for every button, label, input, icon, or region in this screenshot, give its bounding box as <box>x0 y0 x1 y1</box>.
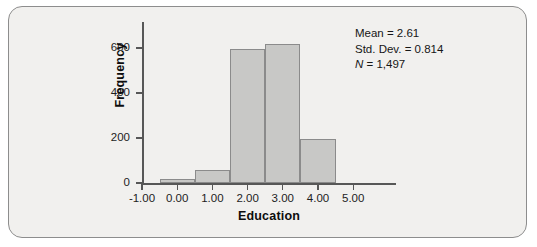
x-axis-title: Education <box>142 209 396 223</box>
x-axis-tick <box>282 184 283 190</box>
histogram-bar <box>265 44 300 183</box>
x-axis-tick <box>141 184 142 190</box>
x-axis-tick <box>177 184 178 190</box>
histogram-bar <box>160 179 195 184</box>
histogram-plot-area: 0 200 400 600 -1.00 0.00 1.00 2.00 3.00 … <box>0 0 537 247</box>
x-axis-tick-label: 5.00 <box>331 192 375 204</box>
x-axis-tick <box>353 184 354 190</box>
y-axis-tick-label: 0 <box>96 176 130 188</box>
histogram-bar <box>300 139 335 183</box>
y-axis-tick <box>136 92 142 93</box>
y-axis-title: Frequency <box>113 35 127 115</box>
y-axis-tick <box>136 137 142 138</box>
x-axis-line <box>142 183 396 185</box>
x-axis-tick <box>317 184 318 190</box>
y-axis-tick-label: 200 <box>96 131 130 143</box>
sample-size-value: = 1,497 <box>363 58 405 70</box>
mean-stat: Mean = 2.61 <box>355 26 443 42</box>
y-axis-tick <box>136 47 142 48</box>
histogram-bar <box>230 49 265 183</box>
histogram-bar <box>195 170 230 184</box>
y-axis-line <box>142 22 144 184</box>
statistics-annotation: Mean = 2.61 Std. Dev. = 0.814 N = 1,497 <box>355 26 443 73</box>
x-axis-tick <box>247 184 248 190</box>
x-axis-tick <box>212 184 213 190</box>
std-dev-stat: Std. Dev. = 0.814 <box>355 42 443 58</box>
sample-size-stat: N = 1,497 <box>355 57 443 73</box>
